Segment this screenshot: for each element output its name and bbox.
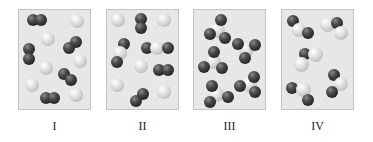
dark-atom [239, 52, 251, 64]
panel-i [18, 9, 91, 110]
light-atom [294, 57, 309, 72]
dark-atom [111, 56, 123, 68]
dark-atom [232, 38, 244, 50]
light-atom [39, 61, 53, 75]
dark-atom [234, 80, 246, 92]
dark-atom [198, 61, 210, 73]
dark-atom [249, 86, 261, 98]
light-atom [25, 78, 39, 92]
dark-atom [65, 74, 77, 86]
dark-atom [248, 71, 260, 83]
dark-atom [135, 22, 147, 34]
dark-atom [204, 96, 216, 108]
panel-label-iv: IV [281, 119, 354, 134]
panel-label-i: I [18, 119, 91, 134]
panel-iv [281, 9, 354, 110]
dark-atom [23, 53, 35, 65]
dark-atom [63, 42, 75, 54]
dark-atom [249, 39, 261, 51]
light-atom [69, 88, 83, 102]
light-atom [73, 54, 87, 68]
panel-ii [106, 9, 179, 110]
dark-atom [162, 42, 174, 54]
dark-atom [215, 14, 227, 26]
dark-atom [204, 28, 216, 40]
light-atom [157, 85, 171, 99]
dark-atom [216, 62, 228, 74]
dark-atom [206, 80, 218, 92]
light-atom [41, 32, 55, 46]
panel-label-iii: III [193, 119, 266, 134]
dark-atom [302, 27, 314, 39]
dark-atom [208, 46, 220, 58]
light-atom [70, 14, 84, 28]
dark-atom [222, 91, 234, 103]
dark-atom [326, 86, 338, 98]
dark-atom [48, 92, 60, 104]
light-atom [308, 47, 323, 62]
light-atom [134, 59, 148, 73]
dark-atom [162, 64, 174, 76]
panel-iii [193, 9, 266, 110]
dark-atom [35, 14, 47, 26]
light-atom [334, 26, 348, 40]
dark-atom [302, 94, 314, 106]
light-atom [110, 78, 124, 92]
light-atom [111, 13, 125, 27]
light-atom [157, 13, 171, 27]
panel-label-ii: II [106, 119, 179, 134]
dark-atom [130, 95, 142, 107]
dark-atom [219, 32, 231, 44]
